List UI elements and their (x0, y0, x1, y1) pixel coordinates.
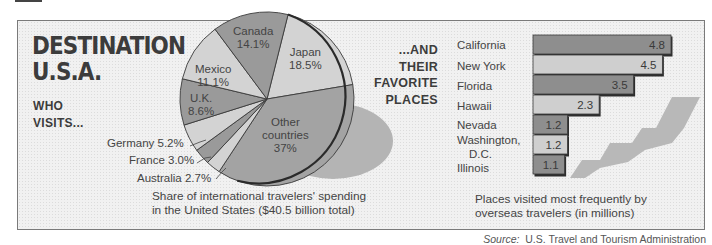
bar-label-california: California (457, 39, 506, 52)
bar-label-new-york: New York (457, 60, 506, 73)
bar-chart: 4.84.53.52.31.21.21.1 (533, 35, 673, 177)
source-prefix: Source: (483, 233, 519, 245)
bar-label-dc: D.C. (469, 148, 492, 161)
bar-label-nevada: Nevada (457, 119, 497, 132)
bar-value-label: 2.3 (577, 99, 593, 111)
slice-label-france: France 3.0% (129, 153, 194, 167)
slice-label-other: Othercountries37% (262, 116, 309, 155)
slice-label-germany: Germany 5.2% (107, 136, 184, 150)
bar-value-label: 1.2 (546, 119, 562, 131)
bar-value-label: 4.8 (649, 39, 665, 51)
source-credit: Source: U.S. Travel and Tourism Administ… (483, 233, 706, 245)
slice-label-canada: Canada14.1% (233, 25, 273, 51)
bar-value-label: 1.1 (543, 159, 559, 171)
slice-label-mexico: Mexico11.1% (195, 63, 231, 89)
slice-label-australia: Australia 2.7% (137, 171, 211, 185)
bar-value-label: 3.5 (612, 79, 628, 91)
bar-caption: Places visited most frequently by overse… (475, 192, 647, 220)
slice-label-uk: U.K.8.6% (188, 92, 214, 118)
slice-label-japan: Japan18.5% (289, 46, 322, 72)
source-text: U.S. Travel and Tourism Administration (519, 233, 706, 245)
bar-label-illinois: Illinois (457, 162, 489, 175)
pie-caption: Share of international travelers' spendi… (152, 189, 366, 217)
bar-label-hawaii: Hawaii (457, 100, 492, 113)
bar-value-label: 1.2 (546, 139, 562, 151)
bar-value-label: 4.5 (640, 59, 656, 71)
bar-label-florida: Florida (457, 80, 492, 93)
bar-label-washington: Washington, (457, 134, 521, 147)
